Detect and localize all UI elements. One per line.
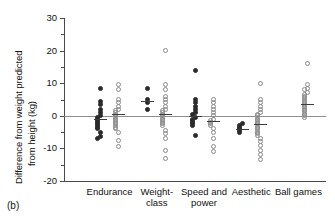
data-point [258, 157, 263, 162]
group-mean-line [207, 121, 220, 122]
figure-panel: Difference from weight predicted from he… [0, 0, 335, 220]
data-point [116, 138, 121, 143]
plot-area: 3020100-10-20 EnduranceWeight-classSpeed… [64, 14, 326, 181]
x-axis-label-ball-games: Ball games [266, 187, 330, 198]
x-axis-label-line: power [172, 198, 236, 209]
data-point [163, 156, 168, 161]
data-point [145, 107, 150, 112]
y-tick-minor [61, 67, 64, 68]
group-mean-line [141, 101, 154, 102]
data-point [211, 130, 216, 135]
group-mean-line [254, 124, 267, 125]
data-point [163, 87, 168, 92]
data-point [95, 136, 100, 141]
data-point [116, 87, 121, 92]
data-point [305, 61, 310, 66]
y-tick-label: 20 [46, 45, 57, 56]
y-tick-label: 30 [46, 12, 57, 23]
data-point [145, 86, 150, 91]
group-mean-line [236, 129, 249, 130]
y-tick-20: 20 [60, 51, 64, 52]
data-point [237, 130, 242, 135]
data-point [258, 143, 263, 148]
y-tick--20: -20 [60, 181, 64, 182]
y-tick-label: 10 [46, 77, 57, 88]
data-point [163, 136, 168, 141]
data-point [116, 130, 121, 135]
y-tick-minor [61, 132, 64, 133]
y-tick-minor [61, 165, 64, 166]
y-tick-minor [61, 34, 64, 35]
y-tick-label: 0 [52, 110, 57, 121]
x-axis-line [64, 181, 326, 182]
group-mean-line [94, 119, 107, 120]
data-point [211, 149, 216, 154]
group-mean-line [112, 114, 125, 115]
y-axis-label: Difference from weight predicted from he… [0, 0, 40, 190]
data-point [193, 133, 198, 138]
group-mean-line [159, 114, 172, 115]
y-tick-label: -10 [43, 142, 57, 153]
y-tick-0: 0 [60, 116, 64, 117]
y-tick-minor [61, 100, 64, 101]
data-point [302, 115, 307, 120]
group-mean-line [301, 104, 314, 105]
group-mean-line [189, 116, 202, 117]
y-axis-line [64, 18, 65, 181]
data-point [163, 148, 168, 153]
data-point [190, 123, 195, 128]
data-point [98, 86, 103, 91]
x-axis-label-line: Ball games [266, 187, 330, 198]
y-tick-label: -20 [43, 175, 57, 186]
y-tick-30: 30 [60, 18, 64, 19]
data-point [116, 144, 121, 149]
data-point [211, 136, 216, 141]
y-tick--10: -10 [60, 148, 64, 149]
y-tick-10: 10 [60, 83, 64, 84]
y-axis-label-line-1: Difference from weight predicted [13, 51, 24, 184]
data-point [193, 68, 198, 73]
data-point [258, 81, 263, 86]
data-point [163, 48, 168, 53]
panel-label: (b) [7, 200, 19, 211]
y-axis-label-line-2: from height (kg) [26, 101, 37, 166]
